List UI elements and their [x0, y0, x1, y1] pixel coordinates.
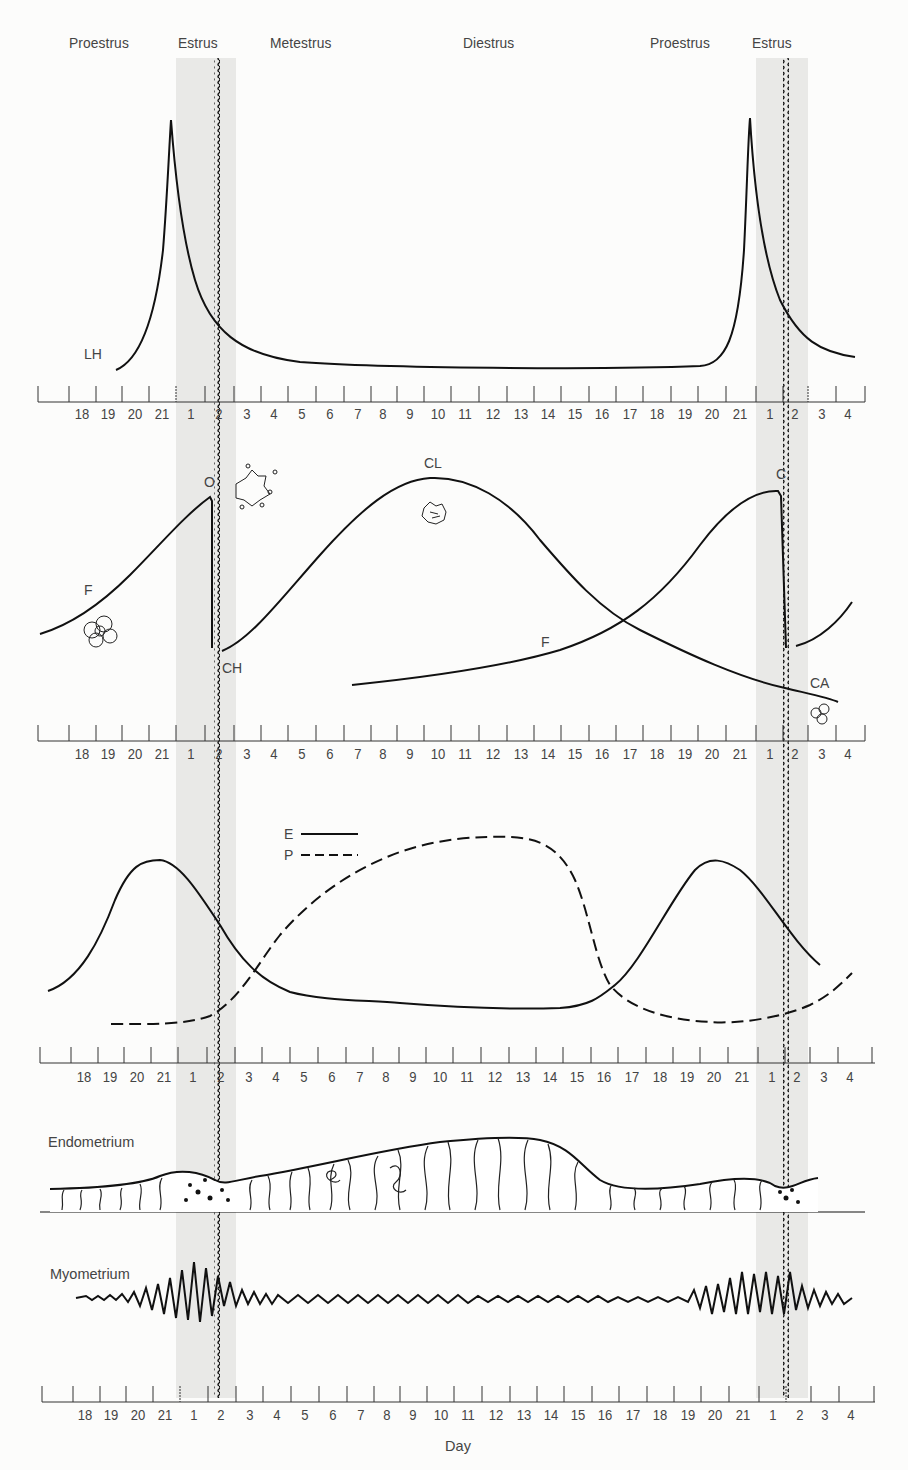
corpus-hemorrhagicum-label: CH: [222, 660, 242, 676]
axis-3: [40, 1047, 875, 1063]
tick-label: 21: [735, 1069, 750, 1085]
axis-4: [42, 1386, 875, 1402]
tick-label: 11: [461, 1407, 475, 1423]
tick-label: 5: [301, 1407, 308, 1423]
follicle-label-right: F: [541, 634, 550, 650]
tick-label: 8: [379, 406, 386, 422]
tick-label: 19: [103, 1069, 118, 1085]
tick-label: 20: [128, 746, 143, 762]
tick-label: 18: [653, 1069, 668, 1085]
tick-label: 15: [570, 1069, 585, 1085]
endometrium-drawing: [40, 1138, 865, 1212]
tick-label: 2: [215, 406, 222, 422]
tick-label: 13: [514, 746, 529, 762]
tick-label: 5: [300, 1069, 307, 1085]
tick-label: 6: [326, 746, 333, 762]
tick-label: 15: [568, 406, 583, 422]
tick-label: 20: [708, 1407, 723, 1423]
tick-label: 18: [650, 406, 665, 422]
estrogen-curve: [48, 860, 820, 1009]
tick-label: 1: [766, 406, 773, 422]
tick-label: 21: [733, 406, 748, 422]
corpus-albicans-label: CA: [810, 675, 829, 691]
tick-label: 16: [595, 406, 610, 422]
tick-label: 2: [793, 1069, 800, 1085]
tick-label: 18: [650, 746, 665, 762]
tick-label: 3: [818, 406, 825, 422]
tick-label: 18: [653, 1407, 668, 1423]
tick-label: 3: [243, 406, 250, 422]
tick-label: 3: [818, 746, 825, 762]
tick-label: 18: [75, 406, 90, 422]
tick-label: 9: [409, 1407, 416, 1423]
tick-label: 19: [104, 1407, 119, 1423]
myometrium-label: Myometrium: [50, 1266, 130, 1282]
tick-label: 20: [705, 406, 720, 422]
lh-label: LH: [84, 346, 102, 362]
corpus-luteum-curve: [222, 478, 838, 702]
tick-label: 20: [707, 1069, 722, 1085]
tick-label: 14: [543, 1069, 558, 1085]
tick-label: 1: [769, 1407, 776, 1423]
tick-label: 2: [796, 1407, 803, 1423]
tick-label: 4: [847, 1407, 854, 1423]
diagram-canvas: [0, 0, 908, 1470]
follicle-label-left: F: [84, 582, 93, 598]
tick-label: 17: [625, 1069, 640, 1085]
tick-label: 15: [571, 1407, 586, 1423]
tick-label: 1: [187, 746, 194, 762]
tick-label: 20: [705, 746, 720, 762]
tick-label: 11: [460, 1069, 474, 1085]
corpus-luteum-label: CL: [424, 455, 442, 471]
tick-label: 8: [383, 1407, 390, 1423]
ruptured-follicle-icon: [236, 464, 277, 509]
x-axis-title: Day: [445, 1438, 471, 1454]
tick-label: 5: [298, 406, 305, 422]
ovulation-label-left: O: [204, 474, 215, 490]
tick-label: 4: [272, 1069, 279, 1085]
tick-label: 16: [595, 746, 610, 762]
follicle-curve-left: [40, 497, 212, 648]
tick-label: 12: [489, 1407, 504, 1423]
legend-p-label: P: [284, 847, 293, 863]
tick-label: 6: [329, 1407, 336, 1423]
tick-label: 2: [215, 746, 222, 762]
tick-label: 3: [246, 1407, 253, 1423]
tick-label: 10: [433, 1069, 448, 1085]
tick-label: 10: [431, 746, 446, 762]
tick-label: 7: [357, 1407, 364, 1423]
tick-label: 1: [187, 406, 194, 422]
tick-label: 6: [326, 406, 333, 422]
axis-1: [38, 386, 865, 402]
tick-label: 17: [623, 746, 638, 762]
axis-2-labels: 18 19 20 21 1 2 3 4 5 6 7 8 9 10 11 12 1…: [0, 746, 908, 766]
tick-label: 7: [354, 406, 361, 422]
corpus-luteum-icon: [422, 502, 446, 524]
tick-label: 5: [298, 746, 305, 762]
tick-label: 9: [406, 746, 413, 762]
tick-label: 2: [217, 1069, 224, 1085]
tick-label: 13: [516, 1069, 531, 1085]
tick-label: 15: [568, 746, 583, 762]
tick-label: 4: [273, 1407, 280, 1423]
tick-label: 4: [844, 406, 851, 422]
tick-label: 4: [844, 746, 851, 762]
tick-label: 1: [189, 1069, 196, 1085]
tick-label: 8: [382, 1069, 389, 1085]
legend-e-label: E: [284, 826, 293, 842]
tick-label: 21: [733, 746, 748, 762]
axis-1-labels: 18 19 20 21 1 2 3 4 5 6 7 8 9 10 11 12 1…: [0, 406, 908, 426]
tick-label: 8: [379, 746, 386, 762]
tick-label: 14: [541, 746, 556, 762]
tick-label: 2: [217, 1407, 224, 1423]
follicle-icon: [84, 616, 117, 647]
tick-label: 21: [157, 1069, 172, 1085]
tick-label: 12: [486, 746, 501, 762]
tick-label: 11: [458, 746, 472, 762]
axis-2: [38, 725, 865, 741]
tick-label: 14: [544, 1407, 559, 1423]
tick-label: 19: [101, 406, 116, 422]
tick-label: 19: [678, 746, 693, 762]
tick-label: 19: [678, 406, 693, 422]
tick-label: 12: [486, 406, 501, 422]
